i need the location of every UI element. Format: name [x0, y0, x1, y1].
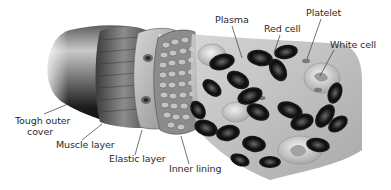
label-white-cell: White cell [330, 39, 376, 50]
label-tough-outer-cover-line2: cover [15, 126, 65, 137]
label-muscle-layer: Muscle layer [56, 139, 115, 150]
label-elastic-layer: Elastic layer [109, 153, 166, 164]
elastic-layer-leader-line [135, 130, 142, 155]
label-plasma: Plasma [215, 14, 249, 25]
vessel-illustration [0, 0, 391, 190]
label-red-cell: Red cell [264, 23, 301, 34]
label-platelet: Platelet [306, 7, 341, 18]
inner-lining-leader-line [181, 136, 189, 164]
blood-vessel-diagram: Plasma Red cell Platelet White cell Toug… [0, 0, 391, 190]
label-tough-outer-cover: Tough outer cover [15, 115, 65, 137]
label-tough-outer-cover-line1: Tough outer [15, 115, 65, 126]
label-inner-lining: Inner lining [169, 163, 221, 174]
